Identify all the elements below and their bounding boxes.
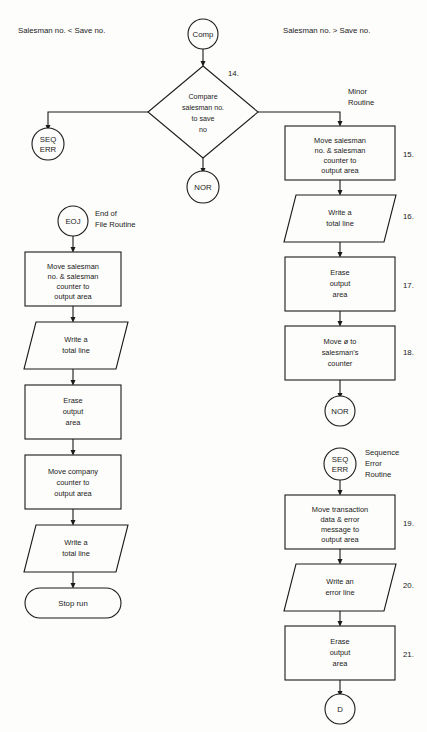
label-seq-err-routine-line1: Sequence (365, 448, 399, 457)
step-number-14: 14. (228, 69, 239, 78)
connector-eoj-label: EOJ (65, 217, 80, 226)
step-21-line-1: Erase (330, 637, 349, 646)
label-seq-err-routine-line3: Routine (365, 470, 391, 479)
flowchart-canvas: Salesman no. < Save no. Salesman no. > S… (0, 0, 427, 732)
step-19-line-2: data & error (320, 515, 360, 524)
eoj-step-5-line-2: total line (62, 549, 90, 558)
step-number-17: 17. (403, 281, 414, 290)
eoj-step-1-line-3: counter to (57, 282, 90, 291)
eoj-step-4-line-1: Move company (48, 467, 98, 476)
flowchart-page: Salesman no. < Save no. Salesman no. > S… (0, 0, 427, 732)
step-20-line-2: error line (325, 588, 354, 597)
decision-compare-salesman-no[interactable] (148, 66, 258, 158)
step-15-line-1: Move salesman (314, 136, 366, 145)
step-21-line-2: output (330, 648, 351, 657)
eoj-step-3-line-1: Erase (63, 396, 82, 405)
decision-line-3: to save (192, 115, 215, 123)
conn-decision-to-seq-err-left (48, 112, 148, 128)
label-eoj-routine-line1: End of (95, 209, 118, 218)
connector-nor-right-label: NOR (331, 407, 349, 416)
label-seq-err-routine-line2: Error (365, 459, 382, 468)
step-number-19: 19. (403, 519, 414, 528)
step-18-line-3: counter (328, 359, 353, 368)
decision-line-4: no (199, 126, 207, 134)
step-number-16: 16. (403, 212, 414, 221)
connector-comp-label: Comp (193, 30, 214, 39)
label-minor-routine-line1: Minor (348, 87, 367, 96)
step-16-line-2: total line (326, 219, 354, 228)
header-left-condition: Salesman no. < Save no. (18, 26, 105, 35)
connector-seq-err-left[interactable] (32, 128, 64, 160)
connector-d-label: D (337, 705, 343, 714)
connector-seq-err-left-line2: ERR (40, 145, 57, 154)
label-minor-routine-line2: Routine (348, 98, 374, 107)
connector-nor-top-label: NOR (194, 183, 212, 192)
step-number-21: 21. (403, 650, 414, 659)
terminator-stop-run-label: Stop run (58, 599, 87, 608)
step-number-18: 18. (403, 348, 414, 357)
step-15-line-2: no. & salesman (315, 146, 366, 155)
decision-line-1: Compare (188, 93, 217, 101)
step-15-line-4: output area (321, 166, 359, 175)
connector-seq-err-left-line1: SEQ (40, 135, 56, 144)
step-20-line-1: Write an (326, 577, 353, 586)
eoj-step-4-line-3: output area (54, 489, 92, 498)
step-19-line-1: Move transaction (312, 505, 368, 514)
step-18-line-1: Move ø to (324, 337, 357, 346)
step-17-line-3: area (333, 290, 349, 299)
label-eoj-routine-line2: File Routine (95, 220, 136, 229)
step-19-line-4: output area (321, 535, 359, 544)
eoj-step-1-line-1: Move salesman (47, 262, 99, 271)
step-number-15: 15. (403, 150, 414, 159)
step-16-line-1: Write a (328, 208, 352, 217)
connector-seq-err-right[interactable] (324, 448, 356, 480)
conn-decision-to-minor-routine (258, 112, 340, 124)
eoj-step-2-line-2: total line (62, 346, 90, 355)
eoj-step-3-line-2: output (63, 407, 84, 416)
eoj-step-2-line-1: Write a (64, 335, 88, 344)
eoj-step-1-line-4: output area (54, 292, 92, 301)
step-15-line-3: counter to (324, 156, 357, 165)
step-18-line-2: salesman's (322, 348, 359, 357)
step-17-line-1: Erase (330, 268, 349, 277)
eoj-step-5-line-1: Write a (64, 538, 88, 547)
step-19-line-3: message to (321, 525, 359, 534)
decision-line-2: salesman no. (182, 104, 224, 112)
step-number-20: 20. (403, 581, 414, 590)
connector-seq-err-right-line1: SEQ (332, 455, 348, 464)
eoj-step-4-line-2: counter to (57, 478, 90, 487)
header-right-condition: Salesman no. > Save no. (283, 26, 370, 35)
step-17-line-2: output (330, 279, 351, 288)
step-21-line-3: area (333, 659, 349, 668)
eoj-step-1-line-2: no. & salesman (48, 272, 99, 281)
connector-seq-err-right-line2: ERR (332, 465, 349, 474)
eoj-step-3-line-3: area (66, 418, 82, 427)
